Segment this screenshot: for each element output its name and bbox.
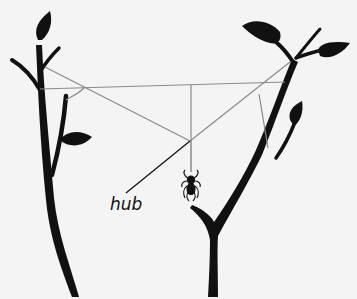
right-plant <box>190 21 350 297</box>
spider-web-diagram <box>0 0 357 299</box>
diagram-canvas: hub <box>0 0 357 299</box>
spider-icon <box>182 170 201 201</box>
left-plant <box>12 11 92 297</box>
hub-pointer-line <box>126 141 190 193</box>
hub-label: hub <box>110 196 142 213</box>
